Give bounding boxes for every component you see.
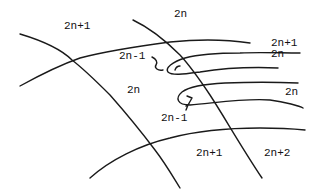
region-label: 2n+1 xyxy=(64,21,90,32)
region-label: 2n xyxy=(271,49,284,60)
region-label: 2n xyxy=(174,9,187,20)
region-label: 2n xyxy=(285,87,298,98)
upper-loop-arrow xyxy=(175,66,180,70)
region-label: 2n xyxy=(127,85,140,96)
loop-label: 2n-1 xyxy=(119,51,145,62)
left-diagonal-curve xyxy=(20,34,180,188)
region-label: 2n+1 xyxy=(196,148,222,159)
upper-loop-pointer xyxy=(152,57,163,70)
lower-loop-pointer xyxy=(186,96,192,110)
loop-label: 2n-1 xyxy=(161,113,187,124)
diagram-canvas xyxy=(0,0,321,195)
region-label: 2n+2 xyxy=(264,148,290,159)
